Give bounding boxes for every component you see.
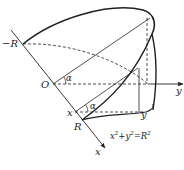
section-hypotenuse <box>75 68 138 112</box>
wedge-top-curve <box>23 8 154 44</box>
label-y-point: y <box>140 109 147 120</box>
circle-equation: x2+y2=R2 <box>110 130 151 141</box>
label-neg-r: −R <box>2 38 18 49</box>
label-x-point: x <box>67 107 73 118</box>
label-alpha-top: α <box>66 73 72 83</box>
wedge-right-curve <box>152 34 156 110</box>
label-y-axis: y <box>175 85 182 96</box>
base-dashed-arc <box>23 44 148 84</box>
label-r-point: R <box>73 121 82 132</box>
x-axis-line <box>11 30 105 148</box>
label-alpha-bottom: α <box>90 101 96 111</box>
alpha-arc-bottom <box>86 105 88 112</box>
label-origin: O <box>41 79 49 90</box>
label-x-axis: x <box>95 146 101 157</box>
cylinder-wedge-diagram: −R O α α x R y y x x2+y2=R2 <box>0 0 184 170</box>
svg-text:x2+y2=R2: x2+y2=R2 <box>110 130 151 141</box>
